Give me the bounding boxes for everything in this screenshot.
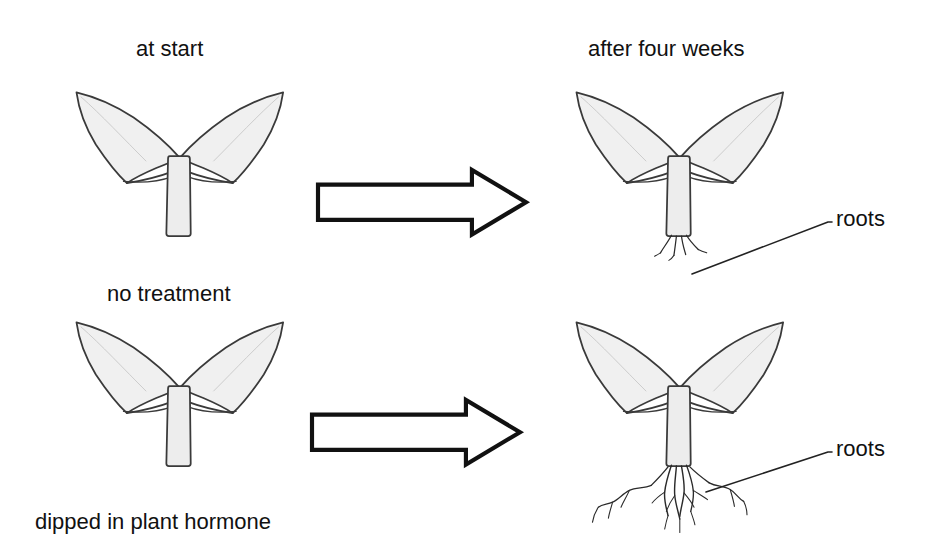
row-hormone-result-plant [576, 322, 783, 532]
diagram-artwork [0, 0, 938, 558]
roots-leader-line-row2 [706, 452, 832, 492]
row-no-treatment-start-plant [76, 92, 283, 236]
row-no-treatment-result-plant [576, 92, 783, 260]
roots-leader-line-row1 [692, 222, 832, 274]
row-hormone-arrow [312, 400, 520, 464]
row-hormone-start-plant [76, 322, 283, 466]
plant-hormone-diagram: at start after four weeks no treatment d… [0, 0, 938, 558]
row-no-treatment-arrow [318, 170, 526, 234]
